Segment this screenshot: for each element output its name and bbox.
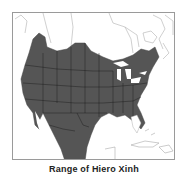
range-map-frame	[12, 12, 175, 160]
caribbean-islands	[105, 129, 173, 160]
range-map	[13, 13, 175, 160]
range-polygon	[21, 33, 159, 160]
map-caption: Range of Hiero Xinh	[0, 164, 188, 174]
